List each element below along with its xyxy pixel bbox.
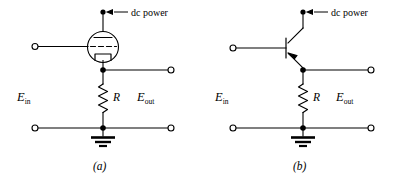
output-return-terminal-b[interactable] — [368, 125, 374, 131]
resistor-label-a: R — [112, 91, 120, 103]
ground-symbol-b — [291, 128, 315, 146]
caption-b: (b) — [293, 160, 307, 173]
input-terminal-a[interactable] — [32, 44, 38, 50]
output-terminal-a[interactable] — [168, 67, 174, 73]
resistor-b — [299, 84, 308, 113]
input-terminal-b[interactable] — [230, 45, 236, 51]
dc-power-arrow-b — [307, 10, 312, 14]
e-in-label-b: Ein — [214, 90, 229, 106]
input-return-terminal-a[interactable] — [32, 125, 38, 131]
caption-a: (a) — [93, 160, 107, 173]
input-return-terminal-b[interactable] — [230, 125, 236, 131]
circuit-diagram-canvas: dc power — [0, 0, 396, 180]
panel-a: dc power — [16, 7, 174, 174]
circuit-figure: dc power — [0, 0, 396, 180]
e-out-label-b: Eout — [335, 90, 354, 106]
dc-power-arrow-a — [107, 10, 112, 14]
dc-power-label-b: dc power — [331, 7, 369, 18]
output-return-terminal-a[interactable] — [168, 125, 174, 131]
dc-power-label-a: dc power — [131, 7, 169, 18]
panel-b: dc power R — [214, 7, 374, 174]
collector-lead-b — [288, 28, 303, 43]
e-in-label-a: Ein — [16, 90, 31, 106]
ground-symbol-a — [91, 128, 115, 146]
resistor-a — [99, 84, 108, 113]
e-out-label-a: Eout — [136, 90, 155, 106]
output-terminal-b[interactable] — [368, 67, 374, 73]
dc-power-node-a — [100, 9, 105, 14]
resistor-label-b: R — [312, 91, 320, 103]
